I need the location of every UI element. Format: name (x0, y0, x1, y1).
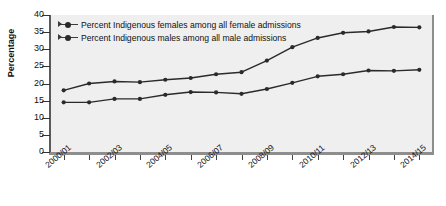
y-axis-tick-label: 35 (18, 27, 44, 36)
y-axis-tick-label: 10 (18, 113, 44, 122)
y-axis-title: Percentage (6, 20, 16, 86)
legend-line-marker-icon (58, 20, 78, 29)
x-axis-tick-mark (343, 155, 344, 160)
data-point-marker (316, 74, 320, 78)
x-axis-tick-mark (292, 155, 293, 160)
legend-line-marker-icon (58, 33, 78, 42)
data-point-marker (189, 90, 193, 94)
legend-item-females: Percent Indigenous females among all fem… (58, 19, 308, 30)
data-point-marker (316, 36, 320, 40)
data-point-marker (87, 81, 91, 85)
data-point-marker (366, 29, 370, 33)
x-axis-tick-mark (140, 155, 141, 160)
data-point-marker (112, 79, 116, 83)
data-point-marker (189, 76, 193, 80)
data-point-marker (163, 78, 167, 82)
y-axis-tick-mark (42, 135, 50, 136)
x-axis-tick-mark (394, 155, 395, 160)
y-axis-tick-label: 5 (18, 130, 44, 139)
data-point-marker (290, 45, 294, 49)
data-point-marker (265, 87, 269, 91)
x-axis-tick-mark (191, 155, 192, 160)
legend-item-males: Percent Indigenous males among all male … (58, 32, 308, 43)
data-point-marker (239, 92, 243, 96)
x-axis-tick-mark (89, 155, 90, 160)
data-point-marker (138, 97, 142, 101)
y-axis-tick-label: 15 (18, 96, 44, 105)
y-axis-tick-mark (42, 49, 50, 50)
y-axis-tick-mark (42, 66, 50, 67)
data-point-marker (392, 25, 396, 29)
y-axis-tick-mark (42, 101, 50, 102)
y-axis-tick-label: 25 (18, 61, 44, 70)
data-point-marker (417, 68, 421, 72)
data-point-marker (392, 69, 396, 73)
data-point-marker (62, 88, 66, 92)
y-axis-tick-mark (42, 84, 50, 85)
y-axis-tick-mark (42, 15, 50, 16)
y-axis-tick-mark (42, 32, 50, 33)
y-axis-tick-label: 20 (18, 79, 44, 88)
series-line (64, 70, 420, 103)
data-point-marker (341, 31, 345, 35)
data-point-marker (417, 25, 421, 29)
data-point-marker (138, 80, 142, 84)
data-point-marker (341, 72, 345, 76)
data-point-marker (87, 100, 91, 104)
y-axis-tick-label: 0 (18, 147, 44, 156)
legend-label-females: Percent Indigenous females among all fem… (81, 20, 301, 30)
data-point-marker (214, 90, 218, 94)
data-point-marker (214, 72, 218, 76)
data-point-marker (366, 68, 370, 72)
chart-figure: Percentage 0510152025303540 Percent Indi… (0, 0, 446, 206)
data-point-marker (239, 70, 243, 74)
y-axis-tick-mark (42, 152, 50, 153)
legend-label-males: Percent Indigenous males among all male … (81, 33, 286, 43)
y-axis-tick-mark (42, 118, 50, 119)
data-point-marker (290, 81, 294, 85)
data-point-marker (163, 93, 167, 97)
data-point-marker (265, 58, 269, 62)
y-axis-tick-label: 30 (18, 44, 44, 53)
chart-legend: Percent Indigenous females among all fem… (58, 19, 308, 45)
data-point-marker (62, 100, 66, 104)
y-axis-tick-labels: 0510152025303540 (18, 0, 44, 160)
data-point-marker (112, 97, 116, 101)
y-axis-tick-label: 40 (18, 10, 44, 19)
x-axis-tick-mark (242, 155, 243, 160)
